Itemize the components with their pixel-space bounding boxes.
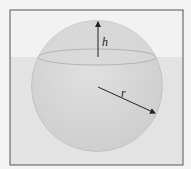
radius-label: r: [121, 86, 126, 100]
height-label: h: [102, 35, 108, 49]
sphere-float-diagram: h r: [0, 0, 191, 169]
